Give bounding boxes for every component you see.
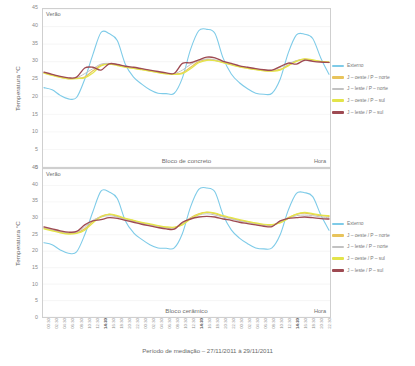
- legend-label: J – oeste / P – sul: [347, 98, 385, 103]
- y-axis-title-bottom: Temperatura °C: [10, 168, 24, 318]
- y-tick-label: 25: [32, 76, 38, 81]
- legend-ceramic: ExternoJ – oeste / P – norteJ – leste / …: [332, 218, 414, 276]
- legend-color-swatch: [332, 257, 344, 259]
- y-tick-label: 40: [32, 182, 38, 187]
- y-axis-title-top: Temperatura °C: [10, 8, 24, 168]
- x-tick-label: 14:30: [104, 318, 108, 329]
- x-tick-label: 10:30: [88, 318, 92, 329]
- y-tick-label: 45: [32, 5, 38, 10]
- legend-label: J – oeste / P – norte: [347, 233, 390, 238]
- legend-label: J – oeste / P – sul: [347, 256, 385, 261]
- y-axis-ticks-top: 454035302520151050: [24, 8, 40, 168]
- x-tick-label: 22:30: [232, 318, 236, 329]
- legend-label: J – leste / P – sul: [347, 268, 383, 273]
- x-tick-label: 12:30: [192, 318, 196, 329]
- x-tick-label: 02:30: [55, 318, 59, 329]
- legend-label: Externo: [347, 221, 364, 226]
- x-tick-label: 04:30: [256, 318, 260, 329]
- y-tick-label: 30: [32, 59, 38, 64]
- season-annotation-top: Verão: [46, 11, 61, 17]
- x-tick-label: 18:30: [312, 318, 316, 329]
- legend-color-swatch: [332, 246, 344, 248]
- y-tick-label: 25: [32, 232, 38, 237]
- x-tick-label: 10:30: [280, 318, 284, 329]
- x-tick-label: 14:30: [296, 318, 300, 329]
- x-tick-label: 04:30: [63, 318, 67, 329]
- legend-color-swatch: [332, 88, 344, 90]
- y-tick-label: 10: [32, 130, 38, 135]
- y-tick-label: 20: [32, 249, 38, 254]
- legend-item[interactable]: J – leste / P – norte: [332, 241, 414, 253]
- x-tick-label: 04:30: [160, 318, 164, 329]
- x-tick-label: 20:30: [128, 318, 132, 329]
- legend-label: J – leste / P – norte: [347, 86, 388, 91]
- x-tick-label: 00:30: [144, 318, 148, 329]
- legend-label: J – oeste / P – norte: [347, 75, 390, 80]
- legend-item[interactable]: J – leste / P – sul: [332, 264, 414, 276]
- y-tick-label: 10: [32, 282, 38, 287]
- x-tick-label: 08:30: [272, 318, 276, 329]
- figure-caption: Período de mediação – 27/11/2011 à 29/11…: [0, 347, 415, 354]
- x-tick-label: 18:30: [216, 318, 220, 329]
- x-tick-label: 16:30: [304, 318, 308, 329]
- legend-label: J – leste / P – norte: [347, 244, 388, 249]
- legend-item[interactable]: J – leste / P – norte: [332, 83, 414, 95]
- block-title-ceramic: Bloco cerâmico: [43, 307, 330, 314]
- legend-label: J – leste / P – sul: [347, 110, 383, 115]
- block-title-concrete: Bloco de concreto: [43, 157, 330, 164]
- y-tick-label: 40: [32, 23, 38, 28]
- legend-item[interactable]: J – oeste / P – norte: [332, 72, 414, 84]
- x-tick-label: 06:30: [168, 318, 172, 329]
- legend-color-swatch: [332, 269, 344, 272]
- x-tick-label: 12:30: [96, 318, 100, 329]
- legend-concrete: ExternoJ – oeste / P – norteJ – leste / …: [332, 60, 414, 118]
- x-tick-label: 08:30: [176, 318, 180, 329]
- x-tick-label: 08:30: [80, 318, 84, 329]
- figure-root: Temperatura °C 454035302520151050 Verão …: [0, 0, 415, 366]
- x-tick-label: 10:30: [184, 318, 188, 329]
- legend-item[interactable]: J – leste / P – sul: [332, 106, 414, 118]
- legend-label: Externo: [347, 63, 364, 68]
- y-axis-ticks-bottom: 454035302520151050: [24, 168, 40, 318]
- legend-item[interactable]: J – oeste / P – sul: [332, 95, 414, 107]
- y-tick-label: 45: [32, 165, 38, 170]
- legend-color-swatch: [332, 111, 344, 114]
- legend-color-swatch: [332, 65, 344, 67]
- x-tick-label: 00:30: [240, 318, 244, 329]
- x-tick-label: 02:30: [248, 318, 252, 329]
- legend-color-swatch: [332, 99, 344, 101]
- y-tick-label: 5: [35, 148, 38, 153]
- season-annotation-bottom: Verão: [46, 171, 61, 177]
- x-tick-label: 06:30: [264, 318, 268, 329]
- x-tick-label: 06:30: [71, 318, 75, 329]
- legend-item[interactable]: J – oeste / P – sul: [332, 253, 414, 265]
- x-tick-label: 12:30: [288, 318, 292, 329]
- legend-color-swatch: [332, 223, 344, 225]
- x-axis-title-bottom: Hora: [314, 308, 326, 314]
- x-tick-label: 14:30: [200, 318, 204, 329]
- plot-area-ceramic: Verão Bloco cerâmico Hora: [42, 168, 331, 318]
- x-tick-label: 00:30: [47, 318, 51, 329]
- y-tick-label: 5: [35, 299, 38, 304]
- lines-ceramic: [43, 169, 330, 317]
- x-axis-title-top: Hora: [314, 158, 326, 164]
- legend-color-swatch: [332, 234, 344, 236]
- x-tick-label: 16:30: [208, 318, 212, 329]
- y-tick-label: 35: [32, 199, 38, 204]
- legend-color-swatch: [332, 76, 344, 78]
- y-tick-label: 35: [32, 41, 38, 46]
- y-tick-label: 20: [32, 94, 38, 99]
- plot-area-concrete: Verão Bloco de concreto Hora: [42, 8, 331, 168]
- x-tick-label: 18:30: [120, 318, 124, 329]
- x-tick-label: 20:30: [320, 318, 324, 329]
- lines-concrete: [43, 9, 330, 167]
- x-tick-label: 20:30: [224, 318, 228, 329]
- legend-item[interactable]: Externo: [332, 60, 414, 72]
- x-tick-label: 02:30: [152, 318, 156, 329]
- y-tick-label: 15: [32, 112, 38, 117]
- x-axis-tick-labels: 00:3002:3004:3006:3008:3010:3012:3014:30…: [42, 318, 331, 344]
- y-tick-label: 30: [32, 215, 38, 220]
- legend-item[interactable]: Externo: [332, 218, 414, 230]
- legend-item[interactable]: J – oeste / P – norte: [332, 230, 414, 242]
- y-tick-label: 15: [32, 265, 38, 270]
